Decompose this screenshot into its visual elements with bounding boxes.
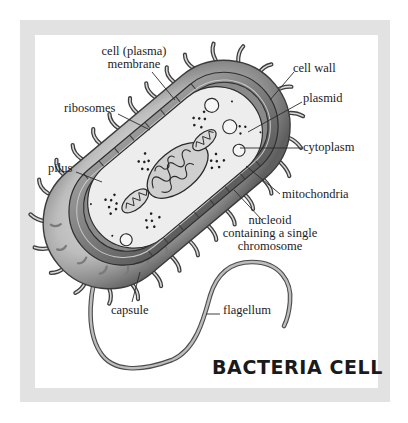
label-plasmid: plasmid (303, 92, 343, 105)
label-ribosomes: ribosomes (64, 102, 115, 115)
label-cell-membrane: cell (plasma) membrane (98, 45, 170, 71)
label-nucleoid: nucleoid containing a single chromosome (222, 214, 318, 253)
label-flagellum: flagellum (223, 304, 271, 317)
label-capsule: capsule (111, 304, 148, 317)
diagram-title: BACTERIA CELL (212, 356, 383, 378)
label-nucleoid-line3: chromosome (222, 240, 318, 253)
label-mitochondria: mitochondria (282, 188, 349, 201)
label-cytoplasm: cytoplasm (303, 141, 354, 154)
label-cell-wall: cell wall (293, 62, 336, 75)
label-pilus: pilus (48, 162, 72, 175)
label-cell-membrane-line2: membrane (98, 58, 170, 71)
